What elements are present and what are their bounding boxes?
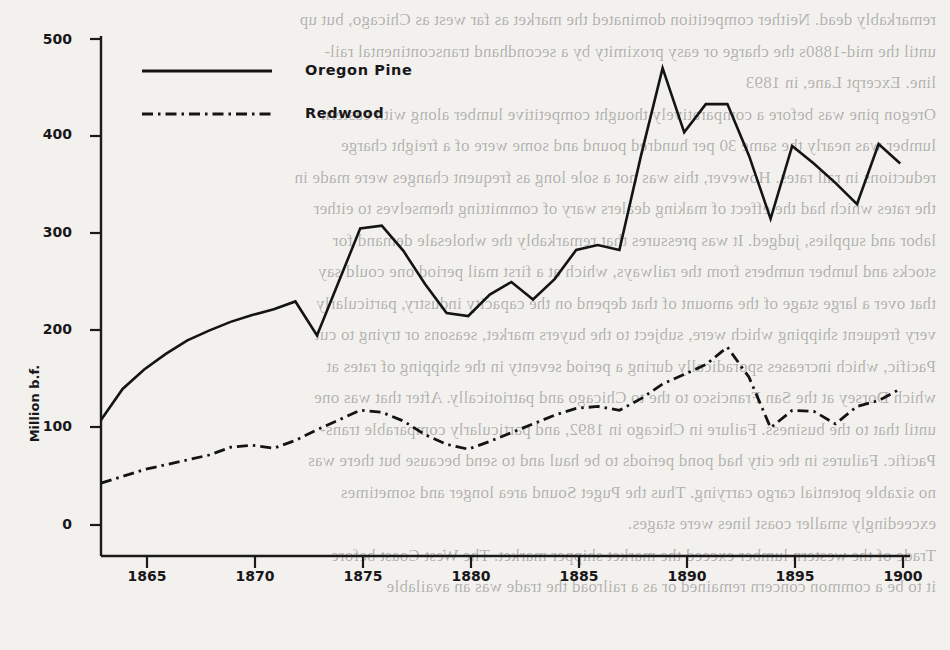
x-axis-ticks (147, 556, 903, 568)
y-axis-ticks (90, 39, 101, 525)
chart-figure: Million b.f. 500 400 300 200 100 0 1865 … (0, 0, 950, 650)
series-line-oregon-pine (101, 68, 900, 420)
series-line-redwood (101, 347, 900, 483)
chart-svg (0, 0, 950, 650)
